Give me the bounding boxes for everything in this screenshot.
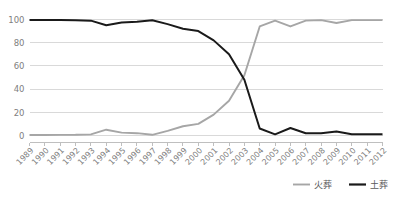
y-tick-label-100: 100 [8, 15, 24, 25]
chart-canvas: 020406080100 198919901991199219931994199… [0, 0, 412, 198]
chart-legend: 火葬土葬 [293, 179, 388, 190]
y-tick-label-60: 60 [14, 61, 25, 71]
y-axis-tick-labels: 020406080100 [8, 15, 24, 141]
legend-label-cremation: 火葬 [314, 179, 332, 190]
legend-label-burial: 土葬 [370, 179, 388, 190]
x-tick-label-2012: 2012 [368, 146, 389, 167]
x-axis-tick-marks [30, 143, 383, 147]
x-axis-tick-labels: 1989199019911992199319941995199619971998… [15, 146, 389, 167]
y-tick-label-0: 0 [19, 131, 24, 141]
series-line-burial [30, 20, 383, 134]
y-tick-label-20: 20 [14, 108, 25, 118]
y-tick-label-40: 40 [14, 84, 25, 94]
series-line-cremation [30, 20, 383, 135]
line-chart: 020406080100 198919901991199219931994199… [0, 0, 412, 198]
y-tick-label-80: 80 [14, 38, 25, 48]
data-series [30, 20, 383, 135]
